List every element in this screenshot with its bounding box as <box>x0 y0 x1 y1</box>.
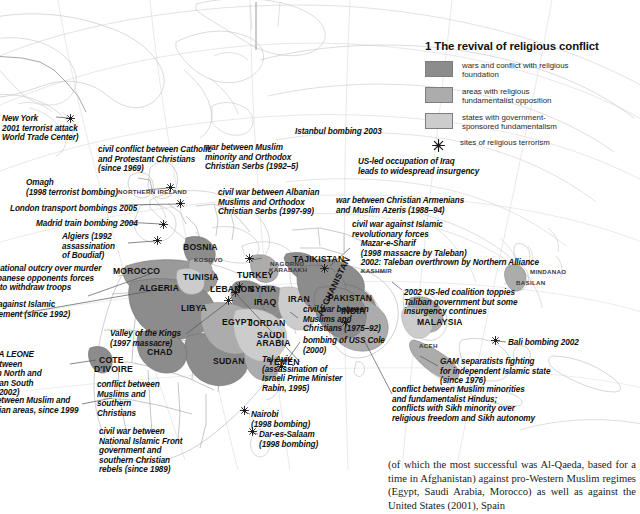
place-label-chad: CHAD <box>147 347 173 357</box>
place-label-iran: IRAN <box>288 294 310 304</box>
place-label-aceh: ACEH <box>419 342 438 349</box>
annotation-northern-ireland-conflict: civil conflict between Catholic and Prot… <box>98 145 212 174</box>
star-istanbul-icon <box>245 254 254 263</box>
place-label-bosnia: BOSNIA <box>183 242 218 252</box>
place-label-basilan: BASILAN <box>516 279 546 286</box>
annotation-uss-cole: bombing of USS Cole (2000) <box>303 336 385 355</box>
legend-swatch-fundamentalist-opposition <box>425 87 453 103</box>
legend-item-wars-conflict: wars and conflict with religious foundat… <box>425 61 637 80</box>
annotation-gam-separatists: GAM separatists fighting for independent… <box>440 357 550 386</box>
annotation-nairobi: Nairobi (1998 bombing) <box>251 410 310 429</box>
annotation-cote-divoire-conflict: conflict between Muslims and southern Ch… <box>97 380 160 418</box>
legend-item-terrorism-sites: sites of religious terrorism <box>425 138 637 156</box>
legend-label-government-sponsored: states with government- sponsored fundam… <box>462 113 557 132</box>
map-legend: 1 The revival of religious conflict wars… <box>425 40 637 163</box>
legend-title: 1 The revival of religious conflict <box>425 40 637 52</box>
annotation-bosnia-conflict: war between Muslim minority and Orthodox… <box>205 143 298 172</box>
place-label-libya: LIBYA <box>181 303 207 313</box>
annotation-algiers: Algiers (1992 assassination of Boudiaf) <box>62 232 115 261</box>
place-label-northern-ireland: NORTHERN IRELAND <box>118 188 187 195</box>
legend-swatch-government-sponsored <box>425 113 453 129</box>
annotation-afghanistan-civil-war: civil war against Islamic revolutionary … <box>352 220 539 268</box>
annotation-bali-bombing: Bali bombing 2002 <box>508 338 579 348</box>
annotation-sierra-leone: SIERRA LEONE war between Muslim North an… <box>0 350 42 398</box>
place-label-kosovo: KOSOVO <box>194 256 223 263</box>
annotation-afghanistan-2002: 2002 US-led coalition toppies Taliban go… <box>404 288 517 317</box>
annotation-sudan-civil-war: civil war between National Islamic Front… <box>99 427 182 475</box>
place-label-sudan: SUDAN <box>213 356 245 366</box>
star-madrid-icon <box>159 220 168 229</box>
star-burst-icon <box>425 138 451 156</box>
annotation-india-conflicts: conflict between Muslim minorities and f… <box>392 385 535 423</box>
legend-label-fundamentalist-opposition: areas with religious fundamentalist oppo… <box>462 87 552 106</box>
place-label-morocco: MOROCCO <box>113 266 160 276</box>
star-london-icon <box>176 199 185 208</box>
star-bali-icon <box>491 336 500 345</box>
place-label-karabakh: KARABAKH <box>269 266 307 273</box>
map-page: 1 The revival of religious conflict wars… <box>0 0 640 514</box>
annotation-lebanon-outcry: international outcry over murder of Leba… <box>0 264 101 293</box>
legend-item-fundamentalist-opposition: areas with religious fundamentalist oppo… <box>425 87 637 106</box>
place-label-d-ivoire: D'IVOIRE <box>94 364 133 374</box>
place-label-algeria: ALGERIA <box>139 283 179 293</box>
annotation-new-york: New York 2001 terrorist attack World Tra… <box>2 114 79 143</box>
star-nairobi-icon <box>240 406 249 415</box>
place-label-jordan: JORDAN <box>248 318 286 328</box>
star-algiers-icon <box>153 236 162 245</box>
place-label-tunisia: TUNISIA <box>183 272 219 282</box>
place-label-arabia: ARABIA <box>256 338 291 348</box>
annotation-kosovo-conflict: civil war between Albanian Muslims and O… <box>218 188 319 217</box>
annotation-lebanon-civil-war: civil war between Muslims and Christians… <box>303 305 381 334</box>
place-label-kashmir: KASHMIR <box>361 267 392 274</box>
star-mazar-icon <box>320 264 329 273</box>
legend-label-terrorism-sites: sites of religious terrorism <box>460 138 550 147</box>
star-luxor-icon <box>224 296 233 305</box>
annotation-istanbul-bombing: Istanbul bombing 2003 <box>295 127 382 137</box>
annotation-valley-of-kings: Valley of the Kings (1997 massacre) <box>110 329 181 348</box>
legend-label-wars-conflict: wars and conflict with religious foundat… <box>462 61 569 80</box>
place-label-mindanao: MINDANAO <box>530 268 566 275</box>
annotation-armenia-azerbaijan: war between Christian Armenians and Musl… <box>336 196 464 215</box>
annotation-dar-es-salaam: Dar-es-Salaam (1998 bombing) <box>259 430 318 449</box>
annotation-madrid-bombing: Madrid train bombing 2004 <box>36 219 138 229</box>
place-label-malaysia: MALAYSIA <box>417 317 463 327</box>
annotation-tel-aviv: Tel Aviv (assassination of Israeli Prime… <box>262 355 342 393</box>
place-label-syria: SYRIA <box>249 284 276 294</box>
annotation-omagh: Omagh (1998 terrorist bombing) <box>26 178 118 197</box>
legend-item-government-sponsored: states with government- sponsored fundam… <box>425 113 637 132</box>
place-label-iraq: IRAQ <box>254 297 276 307</box>
annotation-war-against-islamic: war against Islamic movement (since 1992… <box>0 300 70 319</box>
annotation-iraq-occupation: US-led occupation of Iraq leads to wides… <box>358 157 479 176</box>
annotation-nigeria-war: war between Muslim and Christian areas, … <box>0 396 78 415</box>
annotation-london-bombings: London transport bombings 2005 <box>10 204 137 214</box>
place-label-lebanon: LEBANON <box>210 284 254 294</box>
legend-swatch-wars-conflict <box>425 61 453 77</box>
body-paragraph: (of which the most successful was Al-Qae… <box>388 458 636 512</box>
